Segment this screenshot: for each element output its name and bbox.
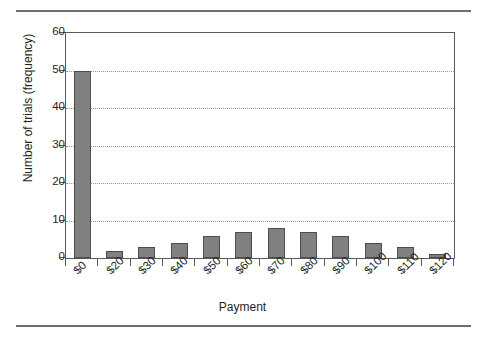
x-tick-mark <box>194 259 195 266</box>
y-tick-label: 0 <box>19 251 65 263</box>
bar-series <box>66 33 454 258</box>
x-tick-mark <box>421 259 422 266</box>
x-tick-mark <box>453 259 454 266</box>
figure: Number of trials (frequency) 01020304050… <box>0 0 485 339</box>
x-tick-mark <box>227 259 228 266</box>
x-tick-mark <box>324 259 325 266</box>
y-tick-label: 30 <box>19 139 65 151</box>
x-tick-mark <box>65 259 66 266</box>
y-tick-label: 20 <box>19 176 65 188</box>
x-tick-mark <box>259 259 260 266</box>
y-tick-label: 40 <box>19 101 65 113</box>
plot-area <box>65 32 455 259</box>
x-tick-mark <box>97 259 98 266</box>
figure-top-rule <box>16 10 471 12</box>
x-tick-mark <box>388 259 389 266</box>
y-tick-label: 50 <box>19 64 65 76</box>
bar <box>203 236 220 259</box>
x-axis-title: Payment <box>0 300 485 314</box>
x-tick-mark <box>162 259 163 266</box>
y-axis: Number of trials (frequency) 01020304050… <box>0 0 65 339</box>
x-tick-mark <box>356 259 357 266</box>
bar <box>332 236 349 259</box>
bar <box>74 71 91 259</box>
bar <box>235 232 252 258</box>
y-tick-label: 60 <box>19 26 65 38</box>
y-tick-label: 10 <box>19 214 65 226</box>
figure-bottom-rule <box>16 325 471 327</box>
x-tick-mark <box>130 259 131 266</box>
bar <box>268 228 285 258</box>
bar <box>300 232 317 258</box>
x-tick-label: $0 <box>71 259 89 277</box>
x-tick-mark <box>291 259 292 266</box>
